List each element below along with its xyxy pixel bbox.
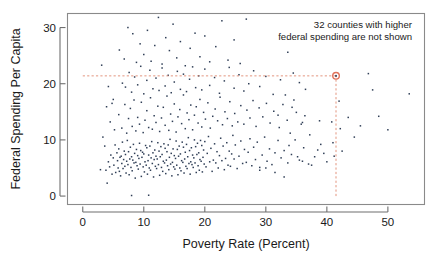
data-point [177, 116, 179, 118]
data-point [311, 164, 313, 166]
data-point [191, 164, 193, 166]
data-point [332, 142, 334, 144]
data-point [255, 126, 257, 128]
data-point [258, 107, 260, 109]
data-point [294, 139, 296, 141]
data-point [189, 173, 191, 175]
data-point [130, 108, 132, 110]
data-point [140, 66, 142, 68]
data-point [252, 100, 254, 102]
data-point [165, 173, 167, 175]
data-point [269, 148, 271, 150]
data-point [282, 104, 284, 106]
data-point [175, 131, 177, 133]
data-point [274, 152, 276, 154]
data-point [128, 118, 130, 120]
data-point [179, 167, 181, 169]
data-point [166, 151, 168, 153]
x-tick-label: 10 [137, 216, 150, 228]
data-point [197, 122, 199, 124]
data-point [159, 131, 161, 133]
data-point [139, 43, 141, 45]
data-point [131, 170, 133, 172]
data-point [253, 70, 255, 72]
data-point [111, 173, 113, 175]
data-point [168, 169, 170, 171]
data-point [202, 157, 204, 159]
data-point [121, 163, 123, 165]
data-point [280, 79, 282, 81]
data-point [299, 82, 301, 84]
data-point [134, 177, 136, 179]
data-point [161, 154, 163, 156]
data-point [183, 94, 185, 96]
data-point [227, 164, 229, 166]
data-point [108, 86, 110, 88]
data-point [233, 87, 235, 89]
data-point [233, 39, 235, 41]
data-point [279, 127, 281, 129]
data-point [133, 99, 135, 101]
data-point [205, 166, 207, 168]
data-point [161, 63, 163, 64]
data-point [319, 120, 321, 122]
data-point [159, 175, 161, 177]
data-point [136, 62, 138, 64]
data-point [196, 172, 198, 174]
data-point [124, 58, 126, 60]
data-point [152, 88, 154, 90]
x-tick-label: 30 [259, 216, 272, 228]
data-point [264, 136, 266, 138]
data-point [139, 143, 141, 145]
data-point [226, 142, 228, 144]
data-point [174, 81, 176, 83]
data-point [156, 158, 158, 160]
data-point [153, 176, 155, 178]
data-point [244, 149, 246, 151]
data-point [166, 159, 168, 161]
data-point [199, 56, 201, 58]
data-point [259, 86, 261, 88]
data-point [137, 117, 139, 119]
data-point [246, 109, 248, 111]
data-point [277, 114, 279, 116]
data-point [214, 77, 216, 79]
data-point [138, 158, 140, 160]
data-point [169, 157, 171, 159]
data-point [164, 162, 166, 164]
data-point [172, 23, 174, 25]
data-point [219, 96, 221, 98]
data-point [113, 99, 115, 101]
data-point [158, 150, 160, 152]
data-point [125, 154, 127, 156]
data-point [372, 89, 374, 91]
data-point [220, 137, 222, 139]
data-point [193, 157, 195, 159]
data-point [195, 146, 197, 148]
data-point [347, 117, 349, 119]
data-point [243, 123, 245, 125]
data-point [231, 153, 233, 155]
data-point [141, 157, 143, 159]
data-point [126, 132, 128, 134]
data-point [175, 140, 177, 142]
data-point [158, 164, 160, 166]
data-point [197, 143, 199, 145]
data-point [247, 152, 249, 154]
data-point [190, 161, 192, 163]
data-point [181, 123, 183, 125]
data-point [172, 162, 174, 164]
data-point [253, 146, 255, 148]
data-point [163, 160, 165, 162]
data-point [213, 159, 215, 161]
data-point [200, 140, 202, 142]
data-point [291, 107, 293, 109]
data-point [138, 168, 140, 170]
data-point [160, 156, 162, 158]
data-point [271, 164, 273, 166]
data-point [259, 169, 261, 171]
data-point [192, 66, 194, 68]
data-point [201, 89, 203, 91]
data-point [150, 97, 152, 99]
data-point [204, 68, 206, 70]
